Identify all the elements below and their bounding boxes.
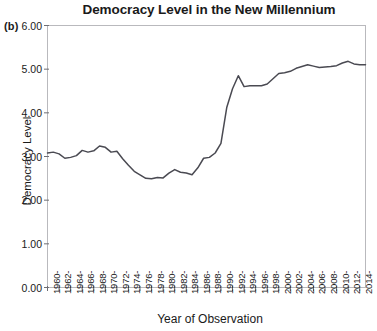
y-tick-label: 6.00 <box>0 21 42 32</box>
x-tick-label: 1990- <box>225 270 235 293</box>
x-tick-label: 1980- <box>167 270 177 293</box>
x-tick-label: 1982- <box>179 270 189 293</box>
x-tick-label: 1966- <box>86 270 96 293</box>
x-tick-label: 2002- <box>294 270 304 293</box>
y-tick-label: 4.00 <box>0 108 42 119</box>
x-tick-label: 1972- <box>121 270 131 293</box>
x-tick-label: 1970- <box>109 270 119 293</box>
x-tick-label: 1994- <box>248 270 258 293</box>
x-tick-label: 1974- <box>132 270 142 293</box>
x-tick-label: 2012- <box>352 270 362 293</box>
x-tick-label: 1988- <box>213 270 223 293</box>
y-tick-label: 1.00 <box>0 239 42 250</box>
x-tick-label: 1986- <box>202 270 212 293</box>
x-tick-label: 1984- <box>190 270 200 293</box>
x-tick-label: 1964- <box>75 270 85 293</box>
y-tick-label: 2.00 <box>0 195 42 206</box>
plot-frame <box>48 26 366 288</box>
y-tick-label: 0.00 <box>0 283 42 294</box>
x-tick-label: 1976- <box>144 270 154 293</box>
x-tick-label: 2008- <box>329 270 339 293</box>
x-tick-label: 2000- <box>283 270 293 293</box>
x-tick-label: 2010- <box>341 270 351 293</box>
x-tick-label: 1960- <box>52 270 62 293</box>
x-tick-label: 1996- <box>260 270 270 293</box>
x-tick-label: 1968- <box>98 270 108 293</box>
x-tick-label: 1992- <box>237 270 247 293</box>
y-tick-label: 3.00 <box>0 152 42 163</box>
x-tick-label: 1978- <box>156 270 166 293</box>
y-tick-label: 5.00 <box>0 64 42 75</box>
chart-figure: (b) Democracy Level in the New Millenniu… <box>0 0 377 331</box>
x-tick-label: 2004- <box>306 270 316 293</box>
x-tick-label: 2006- <box>317 270 327 293</box>
x-tick-label: 2014- <box>364 270 374 293</box>
x-tick-label: 1962- <box>63 270 73 293</box>
x-tick-label: 1998- <box>271 270 281 293</box>
